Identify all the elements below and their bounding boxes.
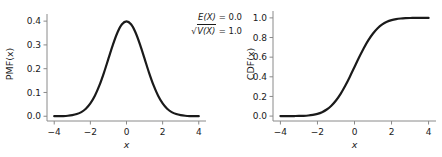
y-tick-label: 0.4 <box>27 16 42 26</box>
x-tick-label: −4 <box>48 127 62 137</box>
x-tick-label: 0 <box>352 127 358 137</box>
cdf-y-axis-label: CDF(x) <box>243 0 257 128</box>
y-tick-label: 0.0 <box>27 111 42 121</box>
cdf-curve <box>280 18 428 116</box>
x-tick-label: 2 <box>160 127 166 137</box>
cdf-x-axis-label: x <box>273 139 436 150</box>
expectation-symbol: E(X) <box>198 12 216 22</box>
x-tick-label: −4 <box>274 127 288 137</box>
cdf-y-axis-label-text: CDF(x) <box>245 48 256 80</box>
x-tick-label: 0 <box>124 127 130 137</box>
x-tick-label: −2 <box>311 127 324 137</box>
x-tick-label: −2 <box>84 127 97 137</box>
pmf-y-axis-label: PMF(x) <box>2 0 16 128</box>
pmf-panel: −4−20240.00.10.20.30.4 PMF(x) x E(X) = 0… <box>0 0 221 157</box>
pmf-x-axis-label: x <box>47 139 206 150</box>
cdf-panel: −4−20240.00.20.40.60.81.0 CDF(x) x <box>221 0 442 157</box>
sqrt-group: √V(X) <box>191 24 216 38</box>
y-tick-label: 0.3 <box>27 40 41 50</box>
x-tick-label: 4 <box>196 127 202 137</box>
y-tick-label: 0.1 <box>27 88 41 98</box>
x-tick-label: 2 <box>389 127 395 137</box>
figure-canvas: −4−20240.00.10.20.30.4 PMF(x) x E(X) = 0… <box>0 0 442 157</box>
cdf-ticks <box>270 18 429 125</box>
pmf-y-axis-label-text: PMF(x) <box>4 48 15 80</box>
x-tick-label: 4 <box>426 127 432 137</box>
y-tick-label: 0.2 <box>27 64 41 74</box>
variance-symbol: V(X) <box>197 24 216 38</box>
cdf-tick-labels: −4−20240.00.20.40.60.81.0 <box>253 13 432 137</box>
